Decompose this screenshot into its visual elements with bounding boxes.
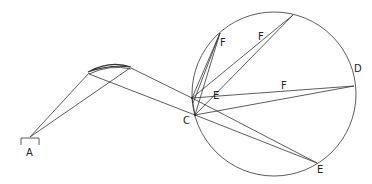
point-c-upper [191,97,193,99]
chord-c1-f-top-left [192,33,220,98]
point-c-lower [194,114,196,116]
label-f-upper-left: F [220,38,226,48]
chord-c1-f-top-right [192,15,293,98]
source-a-bracket [21,138,39,145]
optics-diagram [0,0,372,184]
label-a: A [26,148,33,158]
label-f-middle: F [281,81,287,91]
label-d: D [354,64,362,74]
ray-a-to-lens-left [30,73,89,137]
label-f-upper-mid: F [258,32,264,42]
label-e-lower: E [317,165,323,175]
ray-c-to-e-2 [195,115,317,163]
ray-a-to-lens-right [30,68,130,137]
label-e-upper: E [213,91,219,101]
ray-lens-to-c-left [89,74,195,115]
label-c: C [183,116,190,126]
ray-c-to-e-1 [192,98,317,163]
